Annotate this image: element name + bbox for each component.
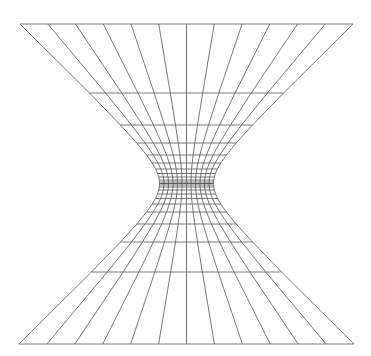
vertical-grid-line	[155, 194, 157, 199]
vertical-grid-line	[236, 224, 252, 242]
vertical-grid-line	[192, 163, 193, 169]
vertical-grid-line	[161, 169, 163, 174]
vertical-grid-line	[251, 24, 297, 93]
vertical-grid-line	[107, 242, 131, 272]
vertical-grid-line	[192, 199, 193, 205]
vertical-grid-line	[282, 272, 354, 344]
vertical-grid-line	[196, 194, 197, 199]
vertical-grid-line	[213, 143, 220, 155]
vertical-grid-line	[215, 204, 220, 212]
vertical-grid-line	[169, 163, 171, 169]
vertical-grid-line	[139, 242, 154, 272]
vertical-grid-line	[19, 272, 91, 344]
vertical-grid-line	[173, 204, 175, 212]
vertical-grid-line	[131, 272, 155, 344]
vertical-grid-line	[164, 224, 169, 242]
vertical-grid-line	[212, 199, 215, 205]
vertical-grid-line	[48, 24, 106, 93]
vertical-grid-line	[201, 169, 202, 174]
vertical-grid-line	[160, 204, 164, 212]
vertical-grid-line	[178, 143, 180, 155]
vertical-grid-line	[164, 199, 166, 205]
vertical-grid-line	[162, 212, 167, 224]
vertical-grid-line	[250, 272, 298, 344]
vertical-grid-line	[214, 190, 215, 194]
vertical-grid-line	[214, 177, 215, 180]
vertical-grid-line	[145, 143, 153, 155]
vertical-grid-line	[220, 224, 231, 242]
vertical-grid-line	[175, 224, 178, 242]
vertical-grid-line	[200, 174, 201, 178]
vertical-grid-line	[122, 93, 143, 125]
vertical-grid-line	[175, 199, 176, 205]
vertical-grid-line	[120, 125, 136, 143]
vertical-grid-line	[198, 155, 200, 163]
vertical-grid-line	[220, 212, 228, 224]
vertical-grid-line	[103, 272, 139, 344]
vertical-grid-line	[166, 169, 167, 174]
vertical-grid-line	[137, 143, 147, 155]
vertical-grid-line	[192, 204, 193, 212]
vertical-grid-line	[284, 24, 353, 93]
vertical-grid-line	[131, 125, 145, 143]
vertical-grid-line	[89, 93, 120, 125]
vertical-grid-line	[228, 125, 242, 143]
wireframe-grid	[0, 0, 371, 356]
vertical-grid-line	[167, 155, 170, 163]
vertical-grid-line	[220, 125, 231, 143]
vertical-grid-line	[153, 204, 158, 212]
vertical-grid-line	[161, 194, 163, 199]
vertical-grid-line	[162, 174, 163, 178]
vertical-grid-line	[197, 199, 198, 205]
vertical-grid-line	[253, 93, 284, 125]
vertical-grid-line	[181, 199, 182, 205]
vertical-grid-line	[211, 169, 213, 174]
vertical-grid-line	[216, 194, 218, 199]
vertical-grid-line	[180, 204, 181, 212]
vertical-grid-line	[75, 272, 123, 344]
vertical-grid-line	[235, 24, 270, 93]
vertical-grid-line	[221, 155, 227, 163]
vertical-grid-line	[162, 190, 163, 194]
vertical-grid-line	[206, 212, 211, 224]
vertical-grid-line	[228, 224, 242, 242]
vertical-grid-line	[164, 163, 166, 169]
vertical-grid-line	[147, 204, 153, 212]
vertical-grid-line	[234, 272, 270, 344]
vertical-grid-line	[155, 242, 165, 272]
vertical-grid-line	[218, 272, 242, 344]
vertical-grid-line	[147, 155, 153, 163]
vertical-grid-line	[193, 212, 195, 224]
vertical-grid-line	[158, 163, 161, 169]
vertical-grid-line	[159, 187, 160, 190]
vertical-grid-line	[206, 194, 207, 199]
vertical-grid-line	[242, 93, 268, 125]
vertical-grid-line	[159, 177, 160, 180]
vertical-grid-line	[160, 155, 164, 163]
vertical-grid-line	[195, 125, 198, 143]
vertical-grid-line	[178, 212, 180, 224]
vertical-grid-line	[170, 143, 173, 155]
vertical-grid-line	[156, 169, 158, 174]
vertical-grid-line	[242, 242, 266, 272]
vertical-grid-line	[214, 187, 215, 190]
vertical-grid-line	[159, 272, 171, 344]
vertical-grid-line	[267, 24, 325, 93]
vertical-grid-line	[169, 199, 171, 205]
vertical-grid-line	[153, 212, 160, 224]
vertical-grid-line	[204, 155, 207, 163]
vertical-grid-line	[221, 204, 227, 212]
vertical-grid-line	[142, 224, 153, 242]
vertical-grid-line	[236, 125, 252, 143]
vertical-grid-line	[167, 190, 168, 194]
vertical-grid-line	[175, 163, 176, 169]
vertical-grid-line	[226, 143, 236, 155]
vertical-grid-line	[205, 190, 206, 194]
vertical-grid-line	[153, 224, 161, 242]
vertical-grid-line	[195, 224, 198, 242]
vertical-grid-line	[203, 125, 208, 143]
vertical-grid-line	[164, 125, 169, 143]
vertical-grid-line	[47, 272, 107, 344]
vertical-grid-line	[253, 242, 282, 272]
vertical-grid-line	[196, 169, 197, 174]
